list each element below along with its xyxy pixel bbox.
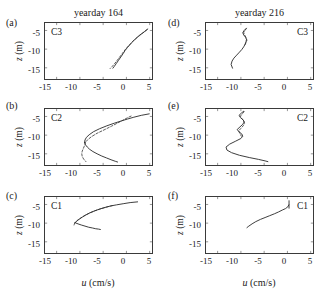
plot-area-f (206, 197, 313, 253)
ytick-a-2: -10 (14, 46, 40, 56)
ylabel-var-d: z (175, 57, 185, 61)
xtick-d-4: 0 (272, 82, 296, 92)
plot-svg-e (206, 109, 313, 165)
panel-b-plot: C2 (44, 108, 153, 166)
plot-svg-d (206, 23, 313, 79)
ytick-b-2: -10 (14, 132, 40, 142)
plot-area-b (45, 109, 152, 165)
plot-area-e (206, 109, 313, 165)
xtick-f-3: -5 (246, 256, 270, 266)
panel-c-plot: C1 (44, 196, 153, 254)
ytick-b-3: -15 (14, 151, 40, 161)
xtick-e-3: -5 (246, 168, 270, 178)
panel-letter-d: (d) (168, 17, 180, 28)
series-solid (113, 29, 148, 68)
panel-letter-e: (e) (168, 100, 179, 111)
ytick-e-2: -10 (175, 132, 201, 142)
series-dashed-upper (75, 206, 113, 223)
velocity-profile-figure: yearday 164 yearday 216 (a) (b) (c) (d) … (0, 0, 324, 297)
ylabel-var-e: z (175, 143, 185, 147)
ytick-c-3: -15 (14, 239, 40, 249)
xtick-e-2: -10 (220, 168, 244, 178)
ytick-f-1: -5 (175, 202, 201, 212)
series-solid-lower (75, 223, 100, 230)
xtick-d-1: -15 (194, 82, 218, 92)
xtick-f-2: -10 (220, 256, 244, 266)
panel-a-plot: C3 (44, 22, 153, 80)
xtick-f-4: 0 (272, 256, 296, 266)
plot-area-c (45, 197, 152, 253)
ytick-a-1: -5 (14, 28, 40, 38)
xtick-a-4: 0 (111, 82, 135, 92)
ytick-b-1: -5 (14, 114, 40, 124)
panel-letter-a: (a) (6, 17, 17, 28)
xtick-c-2: -10 (59, 256, 83, 266)
xtick-b-1: -15 (33, 168, 57, 178)
ytick-c-1: -5 (14, 202, 40, 212)
series-solid-lower (85, 143, 118, 162)
ytick-f-2: -10 (175, 220, 201, 230)
xtick-a-5: 5 (137, 82, 161, 92)
xtick-c-5: 5 (137, 256, 161, 266)
series-solid (247, 205, 289, 228)
xtick-b-4: 0 (111, 168, 135, 178)
xtick-a-1: -15 (33, 82, 57, 92)
plot-area-d (206, 23, 313, 79)
ytick-d-1: -5 (175, 28, 201, 38)
ylabel-var-f: z (175, 231, 185, 235)
panel-e-plot: C2 (205, 108, 314, 166)
panel-f-plot: C1 (205, 196, 314, 254)
xtick-e-5: 5 (298, 168, 322, 178)
xtick-c-3: -5 (85, 256, 109, 266)
xtick-d-3: -5 (246, 82, 270, 92)
xtick-e-4: 0 (272, 168, 296, 178)
ylabel-var-b: z (14, 143, 24, 147)
ytick-a-3: -15 (14, 65, 40, 75)
xtick-d-2: -10 (220, 82, 244, 92)
xlabel-units-right: (cm/s) (247, 277, 275, 288)
series-solid-upper (75, 202, 137, 223)
ytick-e-1: -5 (175, 114, 201, 124)
xtick-a-3: -5 (85, 82, 109, 92)
xtick-f-1: -15 (194, 256, 218, 266)
ylabel-var-c: z (14, 231, 24, 235)
xtick-b-3: -5 (85, 168, 109, 178)
series-solid-upper (85, 114, 150, 143)
plot-area-a (45, 23, 152, 79)
ytick-d-3: -15 (175, 65, 201, 75)
plot-svg-b (45, 109, 152, 165)
ytick-c-2: -10 (14, 220, 40, 230)
column-title-yearday-164: yearday 164 (44, 7, 153, 18)
xtick-f-5: 5 (298, 256, 322, 266)
plot-svg-a (45, 23, 152, 79)
series-dashed-lower (74, 223, 75, 226)
xtick-b-5: 5 (137, 168, 161, 178)
panel-letter-b: (b) (6, 100, 18, 111)
panel-d-plot: C3 (205, 22, 314, 80)
ylabel-var-a: z (14, 57, 24, 61)
xtick-c-4: 0 (111, 256, 135, 266)
ytick-d-2: -10 (175, 46, 201, 56)
xlabel-right-column: u (cm/s) (199, 277, 319, 288)
xtick-a-2: -10 (59, 82, 83, 92)
panel-letter-f: (f) (168, 190, 178, 201)
xtick-e-1: -15 (194, 168, 218, 178)
column-title-yearday-216: yearday 216 (205, 7, 314, 18)
plot-svg-f (206, 197, 313, 253)
series-solid (226, 111, 268, 161)
xlabel-left-column: u (cm/s) (38, 277, 158, 288)
ytick-e-3: -15 (175, 151, 201, 161)
xtick-b-2: -10 (59, 168, 83, 178)
panel-letter-c: (c) (6, 190, 17, 201)
plot-svg-c (45, 197, 152, 253)
series-solid (231, 29, 246, 69)
xlabel-units-left: (cm/s) (86, 277, 114, 288)
ytick-f-3: -15 (175, 239, 201, 249)
xtick-c-1: -15 (33, 256, 57, 266)
xtick-d-5: 5 (298, 82, 322, 92)
series-dashed (110, 30, 147, 69)
